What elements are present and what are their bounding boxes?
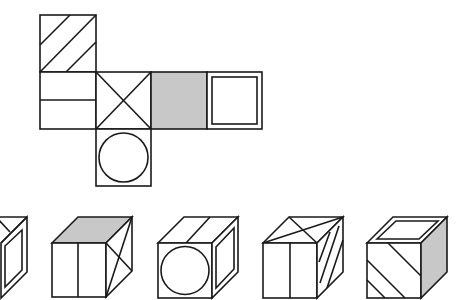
figure-canvas xyxy=(0,0,469,300)
option-3-cube[interactable] xyxy=(158,217,238,298)
option-1-cube[interactable] xyxy=(0,217,27,298)
option-4-cube[interactable] xyxy=(263,217,343,298)
net-face-horizontal-line xyxy=(40,72,96,129)
option-5-cube[interactable] xyxy=(367,217,447,298)
net-face-gray xyxy=(151,72,207,129)
cube-net xyxy=(40,15,262,186)
net-face-circle xyxy=(96,129,151,186)
option-2-cube[interactable] xyxy=(52,217,132,297)
net-face-x-cross xyxy=(96,72,151,129)
net-face-inner-square xyxy=(207,72,262,129)
puzzle-figure: cube-net-puzzle xyxy=(0,0,469,300)
net-face-stripes xyxy=(40,15,96,72)
